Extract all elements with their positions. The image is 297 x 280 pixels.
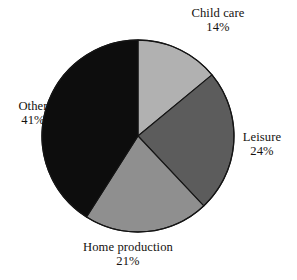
slice-label-child-care-value: 14% — [148, 20, 288, 34]
slice-label-leisure-value: 24% — [229, 144, 295, 158]
slice-label-home-production-value: 21% — [53, 254, 203, 268]
slice-label-child-care-name: Child care — [148, 6, 288, 20]
slice-label-other-name: Other — [2, 99, 64, 113]
slice-label-other: Other 41% — [2, 99, 64, 127]
slice-label-home-production: Home production 21% — [53, 240, 203, 268]
slice-label-other-value: 41% — [2, 113, 64, 127]
slice-label-leisure-name: Leisure — [229, 130, 295, 144]
slice-label-home-production-name: Home production — [53, 240, 203, 254]
pie-slice-group — [42, 40, 234, 232]
slice-label-child-care: Child care 14% — [148, 6, 288, 34]
slice-label-leisure: Leisure 24% — [229, 130, 295, 158]
pie-chart: Child care 14% Leisure 24% Home producti… — [0, 0, 297, 280]
